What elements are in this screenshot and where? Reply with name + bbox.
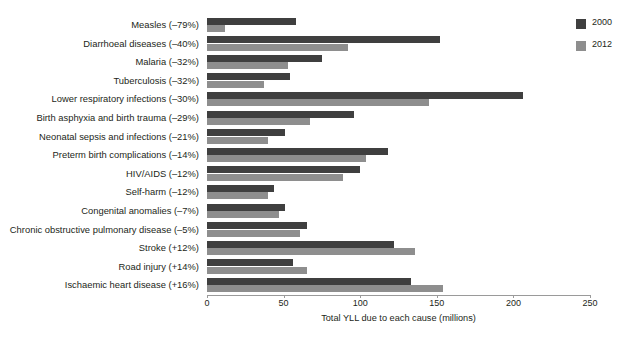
category-label: Tuberculosis (–32%): [0, 72, 203, 91]
bar-2000: [207, 204, 285, 211]
bar-2000: [207, 55, 322, 62]
x-axis-line: [207, 295, 590, 296]
bar-row: [207, 165, 590, 184]
bar-2012: [207, 192, 268, 199]
x-tick-label: 50: [279, 298, 289, 308]
bar-2012: [207, 174, 343, 181]
bar-2000: [207, 18, 296, 25]
bar-2012: [207, 99, 429, 106]
bar-row: [207, 239, 590, 258]
category-label: Congenital anomalies (–7%): [0, 202, 203, 221]
bar-2012: [207, 267, 307, 274]
bar-2012: [207, 118, 310, 125]
bar-2000: [207, 129, 285, 136]
category-label: Birth asphyxia and birth trauma (–29%): [0, 109, 203, 128]
bar-2000: [207, 148, 388, 155]
x-tick-label: 150: [429, 298, 444, 308]
bar-2012: [207, 62, 288, 69]
bar-2000: [207, 166, 360, 173]
bar-2012: [207, 230, 300, 237]
bar-2000: [207, 111, 354, 118]
bar-2000: [207, 36, 440, 43]
category-label: Neonatal sepsis and infections (–21%): [0, 128, 203, 147]
bar-row: [207, 146, 590, 165]
legend-item-2012: 2012: [576, 38, 633, 60]
category-label: Measles (–79%): [0, 16, 203, 35]
chart-legend: 2000 2012: [576, 16, 633, 60]
legend-label-2012: 2012: [592, 39, 612, 49]
category-label: Stroke (+12%): [0, 239, 203, 258]
bar-2012: [207, 211, 279, 218]
bar-2012: [207, 81, 264, 88]
legend-label-2000: 2000: [592, 17, 612, 27]
bar-row: [207, 276, 590, 295]
category-label: Malaria (–32%): [0, 53, 203, 72]
x-axis-title: Total YLL due to each cause (millions): [207, 313, 590, 323]
bar-2000: [207, 222, 307, 229]
x-tick-label: 100: [353, 298, 368, 308]
bar-2000: [207, 241, 394, 248]
x-tick-label: 250: [582, 298, 597, 308]
bar-2012: [207, 25, 225, 32]
category-label: Preterm birth complications (–14%): [0, 146, 203, 165]
bar-row: [207, 183, 590, 202]
bar-2000: [207, 73, 290, 80]
legend-swatch-2012-icon: [576, 41, 586, 51]
category-labels: Measles (–79%)Diarrhoeal diseases (–40%)…: [0, 16, 203, 295]
bar-row: [207, 202, 590, 221]
bar-row: [207, 109, 590, 128]
category-label: Diarrhoeal diseases (–40%): [0, 35, 203, 54]
bar-2012: [207, 137, 268, 144]
plot-area: [207, 16, 590, 295]
bar-row: [207, 72, 590, 91]
bar-row: [207, 16, 590, 35]
category-label: Chronic obstructive pulmonary disease (–…: [0, 221, 203, 240]
bar-row: [207, 35, 590, 54]
bar-2000: [207, 92, 523, 99]
bar-2012: [207, 285, 443, 292]
bar-2000: [207, 278, 411, 285]
bar-chart: Measles (–79%)Diarrhoeal diseases (–40%)…: [0, 0, 633, 338]
category-label: Ischaemic heart disease (+16%): [0, 276, 203, 295]
category-label: HIV/AIDS (–12%): [0, 165, 203, 184]
bar-row: [207, 258, 590, 277]
bar-row: [207, 53, 590, 72]
bar-2012: [207, 248, 415, 255]
bar-2012: [207, 155, 366, 162]
bar-2000: [207, 185, 274, 192]
bar-2012: [207, 44, 348, 51]
legend-item-2000: 2000: [576, 16, 633, 38]
bar-row: [207, 221, 590, 240]
x-tick-label: 200: [506, 298, 521, 308]
legend-swatch-2000-icon: [576, 19, 586, 29]
bar-row: [207, 90, 590, 109]
category-label: Self-harm (–12%): [0, 183, 203, 202]
bar-2000: [207, 259, 293, 266]
x-tick-label: 0: [204, 298, 209, 308]
category-label: Road injury (+14%): [0, 258, 203, 277]
category-label: Lower respiratory infections (–30%): [0, 90, 203, 109]
bar-row: [207, 128, 590, 147]
